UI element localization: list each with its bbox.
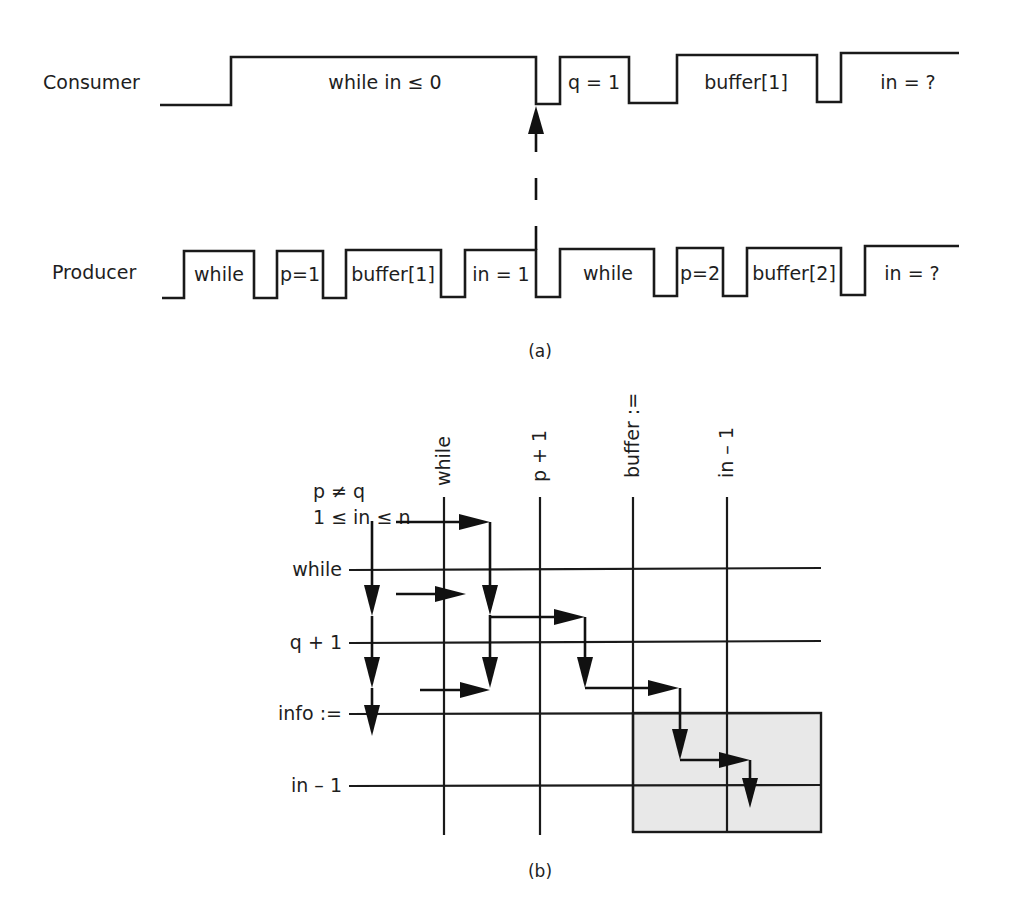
- row-label-info: info :=: [278, 702, 342, 724]
- precondition-2: 1 ≤ in ≤ n: [313, 506, 410, 528]
- column-label-in-minus-1: in – 1: [715, 427, 737, 478]
- figure: Consumer while in ≤ 0 q = 1 buffer[1] in…: [0, 0, 1009, 911]
- precondition-1: p ≠ q: [313, 480, 365, 502]
- arrow-up-icon: [528, 106, 544, 134]
- caption-a: (a): [528, 341, 552, 361]
- arrow-down-icon: [482, 657, 498, 688]
- arrow-down-icon: [364, 657, 380, 688]
- row-line-while: [349, 568, 821, 570]
- row-label-q-plus-1: q + 1: [290, 631, 342, 653]
- column-label-p-plus-1: p + 1: [528, 430, 550, 482]
- row-label-in-minus-1: in – 1: [291, 774, 342, 796]
- consumer-label: Consumer: [43, 71, 140, 93]
- producer-label: Producer: [52, 261, 136, 283]
- producer-seg-buffer1: buffer[1]: [351, 263, 435, 285]
- arrow-down-icon: [364, 705, 380, 736]
- consumer-seg-in: in = ?: [880, 71, 935, 93]
- arrow-down-icon: [364, 585, 380, 616]
- producer-seg-while-2: while: [583, 262, 633, 284]
- consumer-seg-while: while in ≤ 0: [328, 71, 441, 93]
- arrow-right-icon: [554, 609, 585, 625]
- consumer-progress-arrows: [364, 521, 380, 736]
- arrow-down-icon: [482, 585, 498, 615]
- producer-seg-buffer2: buffer[2]: [752, 262, 836, 284]
- arrow-right-icon: [459, 514, 490, 530]
- producer-seg-in1: in = 1: [472, 263, 529, 285]
- arrow-right-icon: [460, 682, 490, 698]
- consumer-seg-q: q = 1: [568, 71, 620, 93]
- progress-grid-diagram: p ≠ q 1 ≤ in ≤ n while p + 1 buffer := i…: [278, 393, 821, 881]
- timing-diagram: Consumer while in ≤ 0 q = 1 buffer[1] in…: [43, 53, 959, 361]
- sync-arrow: [528, 106, 544, 250]
- producer-seg-in: in = ?: [884, 262, 939, 284]
- caption-b: (b): [528, 861, 552, 881]
- producer-seg-p2: p=2: [680, 262, 720, 284]
- arrow-down-icon: [577, 657, 593, 688]
- producer-seg-p1: p=1: [280, 263, 320, 285]
- column-label-while: while: [432, 436, 454, 486]
- producer-seg-while-1: while: [194, 263, 244, 285]
- row-label-while: while: [292, 558, 342, 580]
- row-line-info: [349, 713, 821, 714]
- arrow-right-icon: [435, 586, 466, 602]
- arrow-right-icon: [648, 680, 679, 696]
- column-label-buffer: buffer :=: [621, 393, 643, 478]
- consumer-seg-buffer: buffer[1]: [704, 71, 788, 93]
- consumer-waveform: [160, 53, 959, 105]
